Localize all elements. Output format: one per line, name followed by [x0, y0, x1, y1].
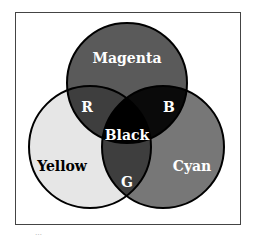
label-yellow: Yellow — [36, 158, 88, 174]
label-r: R — [81, 99, 93, 115]
label-black: Black — [105, 127, 150, 143]
venn-diagram: Magenta Yellow Cyan R B G Black — [0, 0, 253, 236]
label-cyan: Cyan — [173, 158, 212, 174]
label-magenta: Magenta — [93, 50, 162, 66]
caption: … — [35, 229, 42, 236]
label-g: G — [121, 174, 133, 190]
label-b: B — [163, 99, 175, 115]
